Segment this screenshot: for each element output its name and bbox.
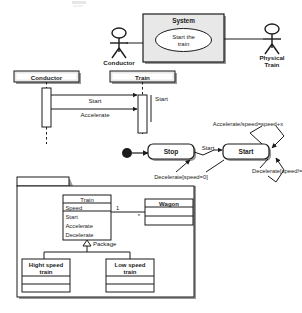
- self-transition-accelerate-line-a: [250, 126, 262, 144]
- use-case-label-line2: train: [178, 41, 190, 47]
- state-start-label: Start: [238, 148, 254, 155]
- generalization-label: Package: [93, 241, 117, 247]
- transition-start-to-stop-line-a: [206, 160, 224, 172]
- message-start-label: Start: [88, 97, 101, 104]
- self-transition-accelerate-label: Accelerate/speed=speed+x: [213, 121, 283, 127]
- class-train-operation-decelerate: Decelerate: [66, 232, 94, 238]
- actor-leg-left-icon: [112, 48, 119, 58]
- use-case-label-line1: Start the: [172, 34, 195, 40]
- package-tab: [17, 177, 69, 186]
- sequence-diagram: Conductor Train Start Accelerate Start: [14, 71, 177, 144]
- lifeline-train-label: Train: [135, 74, 150, 81]
- initial-state-node: [122, 148, 132, 158]
- top-artifact: [72, 1, 86, 7]
- actor-physical-train-label-line1: Physical: [259, 54, 284, 61]
- diagram-svg: System Start the train Conductor: [0, 0, 302, 313]
- class-low-speed-train-name-line2: train: [123, 269, 136, 275]
- class-hight-speed-train: Hight speed train: [22, 259, 70, 292]
- transition-start-to-stop-line-b: [176, 160, 190, 172]
- activation-bar-conductor: [42, 88, 51, 127]
- self-transition-decelerate-label: Decelerate[speed!=0]: [252, 168, 302, 174]
- uml-diagram-canvas: System Start the train Conductor: [0, 0, 302, 313]
- class-train-name: Train: [80, 197, 93, 203]
- class-wagon: Wagon: [145, 199, 193, 225]
- system-boundary-label: System: [172, 17, 195, 25]
- use-case-diagram: System Start the train Conductor: [103, 14, 284, 68]
- class-diagram: Train Speed Start Accelerate Decelerate …: [17, 177, 196, 299]
- transition-stop-to-start-label: Start: [202, 145, 215, 151]
- class-train-attribute-speed: Speed: [66, 205, 83, 211]
- actor-head-icon: [112, 28, 126, 38]
- state-machine-diagram: Stop Start Start Decelerate[speed=0] Acc…: [122, 121, 302, 182]
- class-wagon-name: Wagon: [159, 201, 179, 207]
- state-stop-label: Stop: [164, 148, 179, 156]
- message-accelerate-label: Accelerate: [80, 111, 110, 118]
- actor-leg-left-icon: [265, 44, 272, 54]
- actor-leg-right-icon: [119, 48, 126, 58]
- class-hight-speed-train-name-line2: train: [39, 269, 52, 275]
- actor-physical-train-label-line2: Train: [265, 61, 280, 68]
- self-message-label: Start: [155, 95, 168, 102]
- actor-leg-right-icon: [272, 44, 279, 54]
- class-train-operation-accelerate: Accelerate: [66, 223, 93, 229]
- class-hight-speed-train-name-line1: Hight speed: [29, 262, 64, 268]
- activation-bar-train: [138, 95, 147, 133]
- class-train-operation-start: Start: [66, 214, 79, 220]
- self-transition-accelerate-line-b: [272, 126, 284, 148]
- actor-conductor: Conductor: [103, 28, 135, 66]
- class-low-speed-train-name-line1: Low speed: [114, 262, 145, 268]
- actor-physical-train: Physical Train: [259, 24, 284, 68]
- transition-decelerate-stop-label: Decelerate[speed=0]: [154, 174, 208, 180]
- actor-conductor-label: Conductor: [103, 59, 135, 66]
- lifeline-conductor-label: Conductor: [31, 74, 63, 81]
- class-low-speed-train: Low speed train: [106, 259, 154, 292]
- multiplicity-train-side: 1: [116, 205, 119, 211]
- actor-head-icon: [265, 24, 279, 34]
- class-train: Train Speed Start Accelerate Decelerate: [63, 195, 111, 240]
